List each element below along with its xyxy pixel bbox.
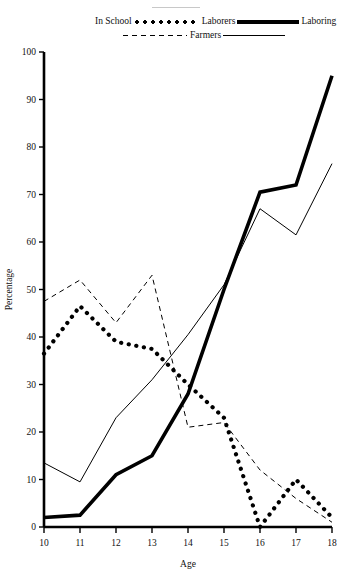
y-axis-tick-label: 0 <box>31 522 36 532</box>
x-axis-tick-label: 17 <box>291 538 301 548</box>
x-axis-tick-label: 13 <box>147 538 157 548</box>
x-axis-tick-label: 14 <box>183 538 193 548</box>
y-axis-tick-label: 90 <box>27 95 37 105</box>
line-chart-plot: 0102030405060708090100101112131415161718… <box>0 0 347 571</box>
y-axis-tick-label: 70 <box>27 190 37 200</box>
y-axis-tick-label: 20 <box>27 427 37 437</box>
series-line-laborers <box>44 76 332 518</box>
chart-series <box>44 76 332 527</box>
x-axis-title: Age <box>180 559 196 569</box>
y-axis-tick-label: 50 <box>27 285 37 295</box>
y-axis-title: Percentage <box>4 269 14 311</box>
y-axis-tick-label: 40 <box>27 332 37 342</box>
y-axis-tick-label: 60 <box>27 237 37 247</box>
series-line-in-school <box>44 306 332 527</box>
chart-axes <box>39 52 332 533</box>
x-axis-tick-label: 15 <box>219 538 229 548</box>
y-axis-tick-label: 80 <box>27 142 37 152</box>
x-axis-tick-label: 18 <box>327 538 337 548</box>
y-axis-tick-label: 10 <box>27 475 37 485</box>
series-line-laboring <box>44 164 332 482</box>
x-axis-tick-label: 10 <box>39 538 49 548</box>
x-axis-tick-label: 16 <box>255 538 265 548</box>
y-axis-tick-label: 30 <box>27 380 37 390</box>
figure-container: In SchoolLaborersLaboring Farmers 010203… <box>0 0 347 571</box>
x-axis-tick-label: 12 <box>111 538 121 548</box>
x-axis-tick-label: 11 <box>75 538 84 548</box>
y-axis-tick-label: 100 <box>22 47 37 57</box>
